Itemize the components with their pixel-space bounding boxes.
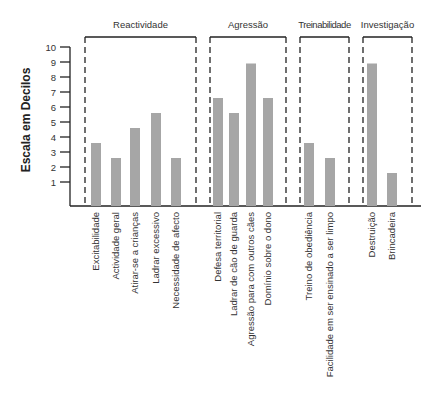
bar <box>213 98 223 206</box>
bar <box>111 158 121 206</box>
category-label: Ladrar excessivo <box>150 212 161 284</box>
category-label: Treino de obediência <box>303 212 314 300</box>
category-label: Facilidade em ser ensinado a ser limpo <box>324 212 335 377</box>
bar <box>246 64 256 207</box>
category-label: Necessidade de afecto <box>170 212 181 309</box>
y-tick-label: 3 <box>36 147 56 158</box>
y-tick-label: 10 <box>36 42 56 53</box>
category-label: Defesa territorial <box>212 212 223 282</box>
y-tick-label: 6 <box>36 102 56 113</box>
y-tick-label: 7 <box>36 87 56 98</box>
category-label: Brincadeira <box>386 212 397 260</box>
bar <box>229 113 239 206</box>
y-tick-label: 5 <box>36 117 56 128</box>
y-tick-label: 4 <box>36 132 56 143</box>
plot-area <box>0 0 439 396</box>
bar <box>130 128 140 206</box>
decile-bar-chart: Escala em Decilos 12345678910Reactividad… <box>0 0 439 396</box>
category-label: Agressão para com outros cães <box>245 212 256 346</box>
group-title: Reactividade <box>113 19 168 30</box>
y-tick-label: 1 <box>36 177 56 188</box>
group-title: Treinabilidade <box>298 19 350 30</box>
category-label: Destruição <box>366 212 377 257</box>
category-label: Ladrar de cão de guarda <box>228 212 239 316</box>
bar <box>171 158 181 206</box>
y-tick-label: 2 <box>36 162 56 173</box>
bar <box>367 64 377 207</box>
bar <box>91 143 101 206</box>
category-label: Atirar-se a crianças <box>129 212 140 294</box>
bar <box>325 158 335 206</box>
y-tick-label: 8 <box>36 72 56 83</box>
bar <box>387 173 397 206</box>
bar <box>304 143 314 206</box>
category-label: Excitabilidade <box>90 212 101 271</box>
group-title: Investigação <box>361 19 414 30</box>
category-label: Actividade geral <box>110 212 121 280</box>
category-label: Domínio sobre o dono <box>262 212 273 305</box>
bar <box>151 113 161 206</box>
y-tick-label: 9 <box>36 57 56 68</box>
bar <box>263 98 273 206</box>
group-title: Agressão <box>228 19 268 30</box>
